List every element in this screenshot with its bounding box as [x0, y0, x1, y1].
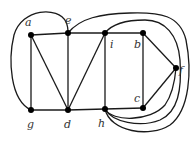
label-d: d	[64, 118, 71, 131]
vertex-b	[140, 30, 146, 36]
edge-a-d	[31, 35, 68, 110]
label-e: e	[65, 14, 72, 27]
vertex-i	[102, 30, 108, 36]
vertex-a	[28, 32, 34, 38]
edge-a-e	[31, 33, 68, 35]
vertex-c	[140, 105, 146, 111]
vertices	[28, 30, 179, 113]
label-i: i	[110, 38, 114, 51]
edge-g-e-curve	[11, 12, 68, 110]
vertex-d	[65, 107, 71, 113]
edges	[11, 12, 189, 132]
label-a: a	[25, 16, 32, 29]
label-c: c	[134, 92, 140, 105]
edge-c-h	[105, 108, 143, 109]
edge-i-d	[68, 33, 105, 110]
label-f: f	[178, 64, 185, 77]
edge-h-d	[68, 109, 105, 110]
label-h: h	[98, 117, 105, 130]
graph-diagram: a e i b f c h d g	[0, 0, 196, 143]
edge-h-f-curve	[105, 68, 176, 118]
edge-f-c	[143, 68, 176, 108]
edge-b-f	[143, 33, 176, 68]
vertex-h	[102, 106, 108, 112]
vertex-e	[65, 30, 71, 36]
label-g: g	[27, 118, 34, 131]
vertex-g	[28, 107, 34, 113]
label-b: b	[134, 38, 141, 51]
